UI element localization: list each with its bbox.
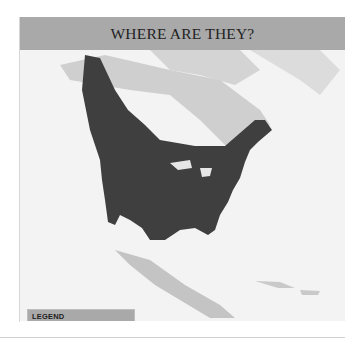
range-map-card: WHERE ARE THEY? LEGEND Year Round <box>19 17 345 322</box>
map-legend: LEGEND Year Round <box>27 309 135 321</box>
legend-title: LEGEND <box>28 310 134 321</box>
map-header: WHERE ARE THEY? <box>20 17 345 50</box>
range-map: LEGEND Year Round <box>20 50 345 321</box>
divider <box>0 337 345 338</box>
north-america-map <box>20 50 345 321</box>
map-title: WHERE ARE THEY? <box>111 25 255 43</box>
